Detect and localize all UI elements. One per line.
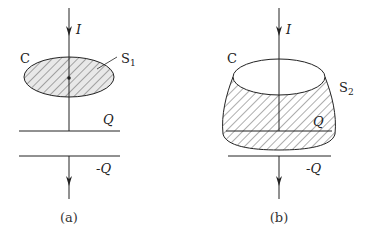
caption-b: (b) bbox=[270, 210, 288, 225]
plate-top-label-a: Q bbox=[103, 112, 114, 127]
panel-a: I C S1 Q -Q (a) bbox=[19, 8, 136, 225]
capacitor-ampere-diagram: I C S1 Q -Q (a) I Q C bbox=[0, 0, 365, 237]
plate-top-label-b: Q bbox=[313, 114, 324, 129]
surface-label-a: S1 bbox=[121, 51, 136, 68]
caption-a: (a) bbox=[60, 210, 78, 225]
current-label-b: I bbox=[285, 22, 292, 37]
plate-bottom-label-b: -Q bbox=[306, 161, 321, 176]
surface-label-b: S2 bbox=[339, 80, 354, 97]
wire-pierce-point bbox=[67, 76, 71, 80]
plate-bottom-label-a: -Q bbox=[96, 161, 111, 176]
current-label-a: I bbox=[75, 22, 82, 37]
panel-b: I Q C S2 -Q (b) bbox=[223, 8, 354, 225]
curve-label-a: C bbox=[20, 51, 30, 66]
curve-label-b: C bbox=[227, 51, 237, 66]
